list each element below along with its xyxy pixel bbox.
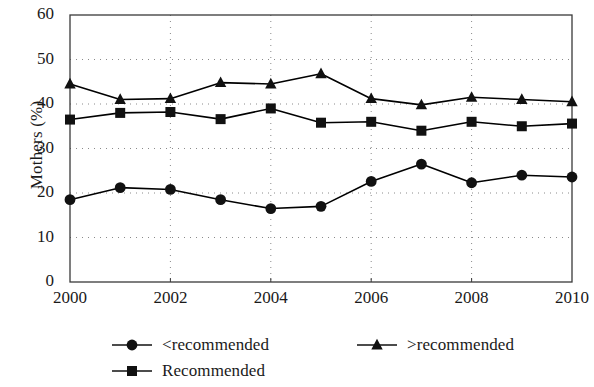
data-point-circle xyxy=(265,203,276,214)
data-point-triangle xyxy=(64,78,75,89)
data-point-square xyxy=(316,118,326,128)
chart-legend: <recommended>recommendedRecommended xyxy=(0,330,594,387)
data-point-circle xyxy=(466,177,477,188)
legend-marker-triangle-icon xyxy=(355,336,399,354)
data-point-circle xyxy=(416,159,427,170)
series-3 xyxy=(64,68,577,110)
y-tick-label: 60 xyxy=(8,4,54,24)
legend-label: >recommended xyxy=(407,335,514,355)
legend-marker-square-icon xyxy=(110,362,154,380)
chart-figure: Mothers (%) 0102030405060 20002002200420… xyxy=(0,0,594,387)
x-tick-label: 2008 xyxy=(437,288,507,308)
legend-item: <recommended xyxy=(110,334,269,356)
plot-area xyxy=(0,0,594,330)
y-tick-label: 30 xyxy=(8,138,54,158)
gridlines xyxy=(70,15,572,282)
legend-marker-circle-icon xyxy=(110,336,154,354)
data-point-circle xyxy=(516,170,527,181)
x-tick-label: 2006 xyxy=(336,288,406,308)
data-point-circle xyxy=(165,184,176,195)
legend-item: Recommended xyxy=(110,360,265,382)
data-point-triangle xyxy=(466,91,477,102)
x-tick-label: 2004 xyxy=(236,288,306,308)
data-point-square xyxy=(65,115,75,125)
data-point-square xyxy=(366,117,376,127)
data-series-layer xyxy=(64,68,577,214)
y-tick-label: 40 xyxy=(8,93,54,113)
data-point-circle xyxy=(567,172,578,183)
series-line xyxy=(70,74,572,105)
legend-marker xyxy=(371,339,382,350)
legend-label: Recommended xyxy=(162,361,265,381)
x-tick-label: 2010 xyxy=(537,288,594,308)
data-point-circle xyxy=(316,201,327,212)
y-tick-label: 50 xyxy=(8,49,54,69)
data-point-square xyxy=(467,117,477,127)
legend-marker xyxy=(127,340,138,351)
data-point-circle xyxy=(115,182,126,193)
data-point-square xyxy=(517,121,527,131)
data-point-square xyxy=(165,107,175,117)
data-point-circle xyxy=(215,194,226,205)
x-tick-label: 2000 xyxy=(35,288,105,308)
y-tick-label: 10 xyxy=(8,227,54,247)
data-point-square xyxy=(266,103,276,113)
legend-marker xyxy=(127,366,137,376)
data-point-square xyxy=(416,126,426,136)
data-point-square xyxy=(115,108,125,118)
x-tick-label: 2002 xyxy=(135,288,205,308)
data-point-triangle xyxy=(315,68,326,79)
y-tick-label: 20 xyxy=(8,182,54,202)
series-1 xyxy=(65,159,578,214)
legend-label: <recommended xyxy=(162,335,269,355)
data-point-circle xyxy=(366,176,377,187)
data-point-square xyxy=(216,114,226,124)
legend-item: >recommended xyxy=(355,334,514,356)
data-point-circle xyxy=(65,194,76,205)
data-point-triangle xyxy=(215,76,226,87)
data-point-triangle xyxy=(365,92,376,103)
series-2 xyxy=(65,103,577,135)
data-point-square xyxy=(567,119,577,129)
